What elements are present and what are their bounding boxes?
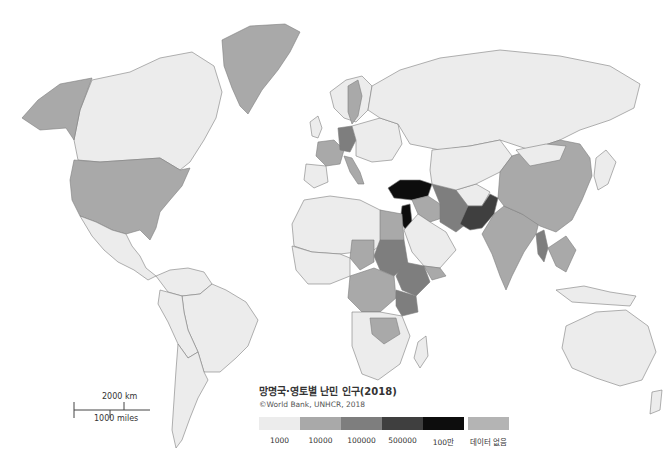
- legend-label-no-data: 데이터 없음: [468, 436, 509, 447]
- country-iberia: [304, 164, 328, 188]
- country-indonesia: [556, 286, 636, 306]
- legend-label: 500000: [382, 436, 423, 447]
- country-central-africa: [348, 268, 396, 312]
- country-egypt: [380, 210, 404, 244]
- country-uk: [310, 116, 322, 138]
- country-japan-korea: [594, 150, 616, 190]
- country-eastern-europe: [352, 118, 402, 162]
- country-italy: [344, 156, 364, 184]
- legend-label: 100만: [423, 436, 464, 447]
- scale-miles-label: 1000 miles: [94, 414, 138, 423]
- country-north-africa: [292, 196, 392, 254]
- legend-label: 1000: [259, 436, 300, 447]
- legend-swatch-1000000: [423, 417, 464, 430]
- map-source: ©World Bank, UNHCR, 2018: [259, 400, 519, 409]
- country-new-zealand: [650, 390, 662, 414]
- legend-labels: 1000 10000 100000 500000 100만 데이터 없음: [259, 436, 519, 447]
- country-thailand-indochina: [548, 236, 576, 272]
- scale-bar: 2000 km 1000 miles: [72, 392, 152, 428]
- world-refugee-map: 2000 km 1000 miles 망명국·영토별 난민 인구(2018) ©…: [0, 0, 669, 459]
- scale-km-label: 2000 km: [102, 392, 137, 401]
- legend-swatch-10000: [300, 417, 341, 430]
- legend-label: 10000: [300, 436, 341, 447]
- map-title: 망명국·영토별 난민 인구(2018): [259, 383, 519, 398]
- country-australia: [562, 310, 656, 386]
- legend-swatch-100000: [341, 417, 382, 430]
- legend-swatch-no-data: [468, 417, 509, 430]
- country-greenland: [222, 24, 300, 114]
- country-canada: [74, 52, 222, 170]
- legend: 망명국·영토별 난민 인구(2018) ©World Bank, UNHCR, …: [259, 383, 519, 447]
- country-russia: [368, 50, 640, 150]
- country-myanmar-bangladesh: [536, 230, 548, 262]
- legend-swatch-1000: [259, 417, 300, 430]
- country-madagascar: [414, 336, 428, 368]
- country-chad: [350, 240, 374, 270]
- legend-color-bar: [259, 417, 519, 430]
- legend-swatch-500000: [382, 417, 423, 430]
- legend-label: 100000: [341, 436, 382, 447]
